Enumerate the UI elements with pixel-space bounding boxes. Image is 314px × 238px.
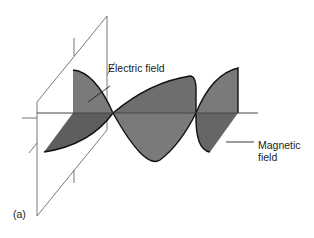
magnetic-field-label: Magnetic field: [258, 139, 301, 163]
electric-field-lobe-3: [196, 68, 238, 113]
electric-field-label: Electric field: [108, 62, 165, 74]
magnetic-field-lobe-2: [113, 113, 196, 161]
magnetic-field-label-line2: field: [258, 151, 301, 163]
electric-field-lobe-2: [113, 76, 196, 113]
magnetic-field-lobe-1: [44, 113, 113, 152]
panel-label: (a): [13, 208, 26, 220]
magnetic-field-label-line1: Magnetic: [258, 139, 301, 151]
em-wave-diagram: Electric field Magnetic field (a): [0, 0, 314, 238]
em-wave-svg: [0, 0, 314, 238]
magnetic-field-lobe-3: [196, 113, 238, 152]
